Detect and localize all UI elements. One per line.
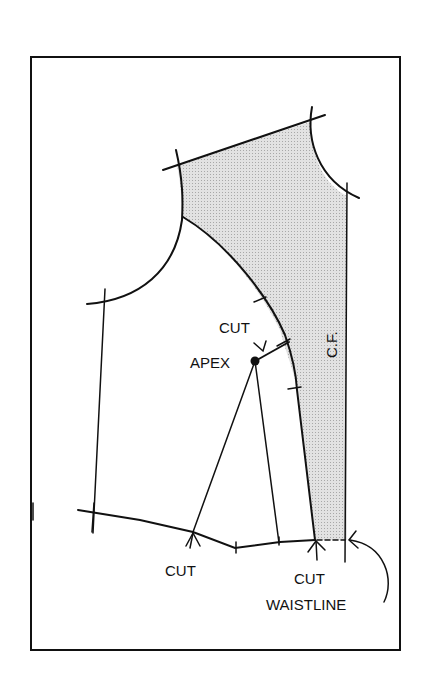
label-cut-left: CUT	[165, 562, 196, 579]
apex-point	[251, 357, 260, 366]
label-waistline: WAISTLINE	[266, 596, 346, 613]
waistline-leader	[350, 540, 388, 602]
label-cut-right: CUT	[294, 570, 325, 587]
armhole-curve	[87, 150, 182, 304]
dart-leg-right	[255, 361, 279, 543]
arrow-cut-right-stem	[316, 541, 317, 560]
label-cf: C.F.	[323, 331, 340, 358]
dart-leg-left	[193, 361, 255, 532]
label-cut-top: CUT	[219, 319, 250, 336]
pattern-diagram: CUT APEX C.F. CUT CUT WAISTLINE	[0, 0, 430, 694]
shaded-panel	[177, 122, 347, 540]
cut-line-top	[257, 342, 289, 360]
label-apex: APEX	[190, 354, 230, 371]
side-seam	[93, 289, 105, 533]
arrow-cut-top	[254, 341, 266, 351]
